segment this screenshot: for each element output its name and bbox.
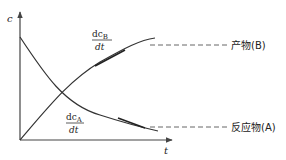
rate-b-denominator: dt bbox=[95, 42, 105, 52]
product-b-label: 产物(B) bbox=[231, 39, 266, 51]
rate-a-denominator: dt bbox=[69, 125, 79, 135]
y-axis-label: c bbox=[7, 13, 13, 24]
x-axis-label: t bbox=[164, 145, 169, 156]
rate-label-b: dcB dt bbox=[92, 29, 112, 52]
reactant-a-label: 反应物(A) bbox=[231, 121, 276, 133]
reactant-a-curve bbox=[20, 37, 158, 131]
reaction-diagram: c t 产物(B) 反应物(A) dcB dt dcA dt bbox=[0, 0, 286, 160]
rate-b-numerator: dcB bbox=[92, 29, 108, 41]
product-b-tangent bbox=[95, 50, 125, 66]
reactant-a-tangent bbox=[118, 118, 145, 128]
rate-label-a: dcA dt bbox=[66, 112, 84, 135]
rate-a-numerator: dcA bbox=[66, 112, 83, 124]
